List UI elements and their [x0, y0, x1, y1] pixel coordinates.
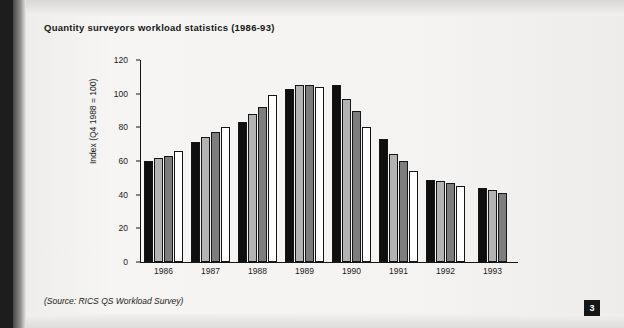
page-bottom-shading: [26, 314, 624, 328]
bar-group-1989: [281, 60, 328, 262]
bar-group-1987: [187, 60, 234, 262]
bar-1992-Q1: [426, 180, 435, 262]
x-axis-tick-label: 1986: [140, 266, 187, 276]
page-top-shading: [26, 0, 624, 16]
bar-1987-Q4: [221, 127, 230, 262]
y-axis-tick-label: 80: [119, 122, 134, 132]
x-axis-tick-label: 1992: [422, 266, 469, 276]
y-axis-tick-label: 120: [114, 55, 134, 65]
bar-chart: Index (Q4 1988 = 100) 198619871988198919…: [86, 52, 536, 284]
bar-1987-Q1: [191, 142, 200, 262]
y-axis-tick-mark: [136, 161, 140, 162]
bar-1990-Q4: [362, 127, 371, 262]
y-axis-tick-label: 100: [114, 89, 134, 99]
y-axis-tick-label: 60: [119, 156, 134, 166]
y-axis-tick-label: 40: [119, 190, 134, 200]
plot-area: [140, 60, 516, 262]
bar-1986-Q4: [174, 151, 183, 262]
bar-1989-Q3: [305, 85, 314, 262]
bar-1991-Q4: [409, 171, 418, 262]
bar-1993-Q1: [478, 188, 487, 262]
bar-1989-Q1: [285, 89, 294, 262]
x-axis-tick-labels: 19861987198819891990199119921993: [140, 266, 516, 276]
page-number-badge: 3: [584, 300, 600, 316]
source-note: (Source: RICS QS Workload Survey): [44, 296, 183, 306]
y-axis-tick-mark: [136, 127, 140, 128]
y-axis-tick-mark: [136, 228, 140, 229]
bar-1989-Q2: [295, 85, 304, 262]
x-axis-tick-label: 1990: [328, 266, 375, 276]
bar-group-1990: [328, 60, 375, 262]
x-axis-line: [140, 262, 518, 263]
bar-group-1986: [140, 60, 187, 262]
x-axis-tick-label: 1991: [375, 266, 422, 276]
bar-1987-Q3: [211, 132, 220, 262]
bar-1993-Q2: [488, 190, 497, 262]
y-axis-tick-mark: [136, 60, 140, 61]
bar-1986-Q3: [164, 156, 173, 262]
y-axis-tick-mark: [136, 262, 140, 263]
bar-1988-Q2: [248, 114, 257, 262]
bar-1988-Q1: [238, 122, 247, 262]
bar-1992-Q3: [446, 183, 455, 262]
bar-1989-Q4: [315, 87, 324, 262]
y-axis-tick-label: 20: [119, 223, 134, 233]
y-axis-tick-mark: [136, 93, 140, 94]
bar-group-1991: [375, 60, 422, 262]
bar-1993-Q3: [498, 193, 507, 262]
bar-group-1992: [422, 60, 469, 262]
bar-1991-Q2: [389, 154, 398, 262]
x-axis-tick-label: 1989: [281, 266, 328, 276]
bar-1992-Q4: [456, 186, 465, 262]
y-axis-tick-mark: [136, 194, 140, 195]
bar-1988-Q4: [268, 95, 277, 262]
bar-group-1993: [469, 60, 516, 262]
binding-shadow: [0, 0, 13, 328]
y-axis-tick-label: 0: [123, 257, 134, 267]
bar-1986-Q1: [144, 161, 153, 262]
scanned-page: Quantity surveyors workload statistics (…: [0, 0, 624, 328]
x-axis-tick-label: 1993: [469, 266, 516, 276]
x-axis-tick-label: 1988: [234, 266, 281, 276]
bar-1991-Q1: [379, 139, 388, 262]
bar-1990-Q3: [352, 111, 361, 263]
x-axis-tick-label: 1987: [187, 266, 234, 276]
bar-1990-Q2: [342, 99, 351, 262]
bar-1992-Q2: [436, 181, 445, 262]
bar-1988-Q3: [258, 107, 267, 262]
bar-1991-Q3: [399, 161, 408, 262]
bar-group-1988: [234, 60, 281, 262]
bar-1986-Q2: [154, 158, 163, 262]
page-title: Quantity surveyors workload statistics (…: [44, 22, 275, 33]
book-binding-edge: [0, 0, 26, 328]
bar-1987-Q2: [201, 137, 210, 262]
bar-groups: [140, 60, 516, 262]
bar-1990-Q1: [332, 85, 341, 262]
y-axis-title: Index (Q4 1988 = 100): [88, 79, 98, 164]
